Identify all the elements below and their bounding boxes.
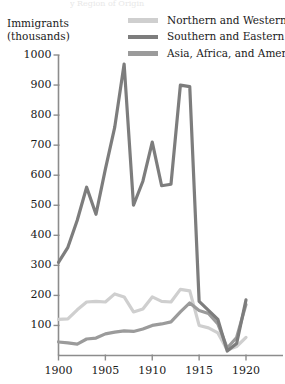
x-axis-tick-label: 1900 [37,365,81,376]
y-axis-tick-label: 200 [16,289,52,300]
y-axis-tick-label: 900 [16,79,52,90]
x-axis-tick-label: 1910 [130,365,174,376]
series-line-asia-africa-and-america [59,303,247,348]
y-axis-tick-label: 400 [16,229,52,240]
y-axis-tick-label: 100 [16,319,52,330]
y-axis-tick-label: 1000 [16,49,52,60]
y-axis-tick-label: 300 [16,259,52,270]
y-axis-tick-label: 500 [16,199,52,210]
x-axis-tick-label: 1920 [224,365,268,376]
y-axis-tick-label: 800 [16,109,52,120]
x-axis-tick-label: 1915 [177,365,221,376]
data-series-lines [59,64,247,351]
series-line-southern-and-eastern-europe [59,64,247,351]
x-axis-tick-label: 1905 [83,365,127,376]
y-axis-tick-label: 600 [16,169,52,180]
immigration-chart-figure: y Region of Origin Immigrants (thousands… [0,0,285,384]
y-axis-tick-label: 700 [16,139,52,150]
